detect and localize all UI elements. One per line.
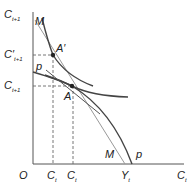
y-tick-c-prime-t1: C′t+1 [4, 48, 23, 62]
label-m-bottom: M [105, 148, 115, 160]
label-a: A [63, 90, 71, 102]
y-tick-c-t1: Ct+1 [4, 79, 20, 93]
x-tick-y-t: Yt [121, 169, 130, 183]
indifference-curve-upper [42, 18, 93, 86]
label-a-prime: A′ [55, 42, 66, 54]
label-p-top: p [35, 60, 42, 72]
point-a-prime [51, 53, 55, 57]
label-p-bottom: p [135, 148, 142, 160]
y-axis-label: Ct+1 [4, 8, 20, 22]
label-m-top: M [35, 15, 45, 27]
x-axis-label: Ct [177, 169, 187, 183]
origin-label: O [19, 169, 28, 181]
x-tick-c-t-2: Ct [67, 169, 77, 183]
point-a [70, 84, 74, 88]
x-tick-c-t-1: Ct [47, 169, 57, 183]
intertemporal-choice-diagram: Ct+1 C′t+1 Ct+1 M p A′ A M p O Ct Ct Yt … [0, 0, 193, 186]
ppf-curve-p [45, 75, 132, 164]
